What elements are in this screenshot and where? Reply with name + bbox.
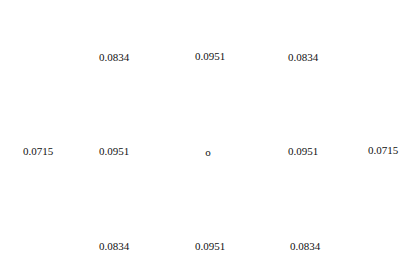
- weight-bottom-right: 0.0834: [290, 240, 320, 252]
- weight-mid-far-right: 0.0715: [368, 144, 398, 156]
- weight-bottom-center: 0.0951: [195, 240, 225, 252]
- weight-top-right: 0.0834: [288, 51, 318, 63]
- weight-mid-left: 0.0951: [99, 145, 129, 157]
- weight-top-center: 0.0951: [195, 50, 225, 62]
- weight-bottom-left: 0.0834: [99, 240, 129, 252]
- weight-mid-far-left: 0.0715: [23, 145, 53, 157]
- weight-top-left: 0.0834: [99, 51, 129, 63]
- center-origin-marker: o: [205, 146, 211, 158]
- weight-mid-right: 0.0951: [288, 145, 318, 157]
